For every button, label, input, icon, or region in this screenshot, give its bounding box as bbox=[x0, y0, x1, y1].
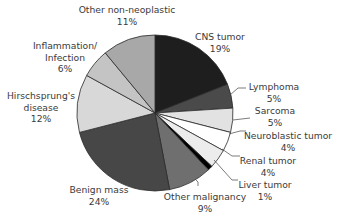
leader-line bbox=[233, 118, 250, 120]
label-pct: 12% bbox=[6, 113, 76, 125]
label-name: Renal tumor bbox=[238, 155, 298, 167]
leader-line bbox=[196, 180, 198, 186]
label-inflammation-infection: Inflammation/ Infection 6% bbox=[30, 40, 100, 75]
label-name: CNS tumor bbox=[190, 31, 250, 43]
label-name: Benign mass bbox=[64, 184, 134, 196]
label-pct: 19% bbox=[190, 43, 250, 55]
label-name: Sarcoma bbox=[250, 105, 300, 117]
label-lymphoma: Lymphoma 5% bbox=[246, 81, 302, 104]
label-other-non-neoplastic: Other non-neoplastic 11% bbox=[72, 4, 182, 27]
label-pct: 4% bbox=[243, 142, 333, 154]
label-name: Other malignancy bbox=[160, 191, 250, 203]
label-sarcoma: Sarcoma 5% bbox=[250, 105, 300, 128]
label-name: Lymphoma bbox=[246, 81, 302, 93]
label-hirschsprungs-disease: Hirschsprung's disease 12% bbox=[6, 90, 76, 125]
label-neuroblastic-tumor: Neuroblastic tumor 4% bbox=[243, 130, 333, 153]
pie-chart: Other non-neoplastic 11% CNS tumor 19% I… bbox=[0, 0, 337, 223]
label-benign-mass: Benign mass 24% bbox=[64, 184, 134, 207]
label-line2: Infection bbox=[30, 52, 100, 64]
label-pct: 5% bbox=[246, 93, 302, 105]
label-name: Liver tumor bbox=[235, 179, 295, 191]
label-line1: Inflammation/ bbox=[30, 40, 100, 52]
label-pct: 11% bbox=[72, 16, 182, 28]
label-line2: disease bbox=[6, 102, 76, 114]
label-renal-tumor: Renal tumor 4% bbox=[238, 155, 298, 178]
label-line1: Hirschsprung's bbox=[6, 90, 76, 102]
leader-line bbox=[214, 160, 238, 180]
label-pct: 9% bbox=[160, 203, 250, 215]
leader-line bbox=[230, 88, 246, 95]
label-pct: 4% bbox=[238, 167, 298, 179]
label-other-malignancy: Other malignancy 9% bbox=[160, 191, 250, 214]
label-name: Neuroblastic tumor bbox=[243, 130, 333, 142]
label-cns-tumor: CNS tumor 19% bbox=[190, 31, 250, 54]
label-name: Other non-neoplastic bbox=[72, 4, 182, 16]
label-pct: 24% bbox=[64, 196, 134, 208]
label-pct: 5% bbox=[250, 117, 300, 129]
label-pct: 6% bbox=[30, 63, 100, 75]
